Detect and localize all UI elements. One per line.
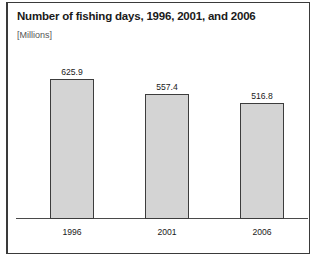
category-label: 2001	[137, 227, 197, 237]
bar[interactable]	[240, 103, 284, 219]
category-label: 2006	[232, 227, 292, 237]
chart-title: Number of fishing days, 1996, 2001, and …	[17, 10, 256, 22]
category-label: 1996	[42, 227, 102, 237]
bar[interactable]	[145, 94, 189, 219]
bar-value-label: 516.8	[232, 91, 292, 101]
plot-area: 625.9 1996 557.4 2001 516.8 2006	[16, 55, 308, 247]
bar-value-label: 625.9	[42, 67, 102, 77]
bar-value-label: 557.4	[137, 82, 197, 92]
chart-figure: Number of fishing days, 1996, 2001, and …	[6, 2, 310, 254]
chart-units-subtitle: [Millions]	[17, 30, 52, 40]
bar[interactable]	[50, 79, 94, 219]
